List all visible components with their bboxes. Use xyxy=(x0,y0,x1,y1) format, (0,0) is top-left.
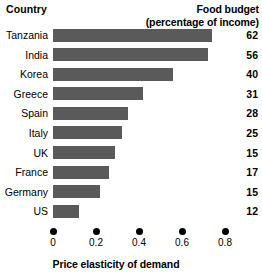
x-axis-tick: 0.6 xyxy=(162,228,202,249)
column-header-food-budget: Food budget (percentage of income) xyxy=(146,3,259,28)
row-value-food-budget: 15 xyxy=(228,185,258,199)
chart-row: Germany15 xyxy=(0,185,262,205)
x-axis-tick: 0.8 xyxy=(205,228,245,249)
column-header-food-budget-line2: (percentage of income) xyxy=(146,16,259,29)
row-label-country: Germany xyxy=(0,185,48,199)
x-axis-tick-label: 0.2 xyxy=(76,237,116,249)
bar xyxy=(53,126,122,139)
row-label-country: Italy xyxy=(0,126,48,140)
x-axis-tick-dot-icon xyxy=(222,228,229,235)
row-value-food-budget: 12 xyxy=(228,204,258,218)
row-label-country: UK xyxy=(0,146,48,160)
row-label-country: Greece xyxy=(0,87,48,101)
row-label-country: Spain xyxy=(0,106,48,120)
row-label-country: Korea xyxy=(0,67,48,81)
chart-row: UK15 xyxy=(0,146,262,166)
chart-row: Korea40 xyxy=(0,67,262,87)
x-axis: Price elasticity of demand 00.20.40.60.8 xyxy=(0,228,262,275)
chart-row: Spain28 xyxy=(0,106,262,126)
bar xyxy=(53,205,79,218)
column-header-food-budget-line1: Food budget xyxy=(146,3,259,16)
x-axis-tick: 0.2 xyxy=(76,228,116,249)
x-axis-tick-dot-icon xyxy=(179,228,186,235)
x-axis-tick-label: 0.4 xyxy=(119,237,159,249)
row-label-country: US xyxy=(0,204,48,218)
x-axis-tick-dot-icon xyxy=(50,228,57,235)
chart-row: France17 xyxy=(0,165,262,185)
x-axis-tick: 0.4 xyxy=(119,228,159,249)
row-value-food-budget: 28 xyxy=(228,106,258,120)
row-value-food-budget: 17 xyxy=(228,165,258,179)
column-header-country: Country xyxy=(6,3,47,15)
x-axis-tick-dot-icon xyxy=(93,228,100,235)
chart-row: Greece31 xyxy=(0,87,262,107)
bar xyxy=(53,87,143,100)
bar xyxy=(53,68,173,81)
bar xyxy=(53,166,109,179)
row-value-food-budget: 31 xyxy=(228,87,258,101)
chart-rows: Tanzania62India56Korea40Greece31Spain28I… xyxy=(0,28,262,224)
x-axis-tick-label: 0.8 xyxy=(205,237,245,249)
bar xyxy=(53,48,208,61)
row-value-food-budget: 56 xyxy=(228,48,258,62)
bar xyxy=(53,29,212,42)
x-axis-tick-label: 0.6 xyxy=(162,237,202,249)
x-axis-tick: 0 xyxy=(33,228,73,249)
bar xyxy=(53,146,115,159)
x-axis-title: Price elasticity of demand xyxy=(0,258,232,270)
row-label-country: India xyxy=(0,48,48,62)
chart-row: US12 xyxy=(0,204,262,224)
x-axis-tick-label: 0 xyxy=(33,237,73,249)
bar xyxy=(53,185,100,198)
bar xyxy=(53,107,128,120)
elasticity-food-budget-chart: Country Food budget (percentage of incom… xyxy=(0,0,262,275)
x-axis-tick-dot-icon xyxy=(136,228,143,235)
row-label-country: France xyxy=(0,165,48,179)
row-value-food-budget: 25 xyxy=(228,126,258,140)
chart-row: Tanzania62 xyxy=(0,28,262,48)
chart-row: Italy25 xyxy=(0,126,262,146)
row-value-food-budget: 40 xyxy=(228,67,258,81)
row-value-food-budget: 15 xyxy=(228,146,258,160)
row-label-country: Tanzania xyxy=(0,28,48,42)
chart-row: India56 xyxy=(0,48,262,68)
row-value-food-budget: 62 xyxy=(228,28,258,42)
